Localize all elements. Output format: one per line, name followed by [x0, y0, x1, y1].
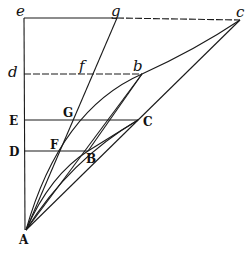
- label-D: D: [9, 145, 19, 159]
- label-g: g: [111, 2, 121, 20]
- vertical-line-eA: [24, 18, 25, 230]
- line-g-c: [117, 18, 240, 20]
- label-G: G: [63, 106, 73, 120]
- label-C: C: [143, 115, 153, 129]
- label-B: B: [86, 152, 96, 166]
- line-A-c: [26, 20, 240, 230]
- label-A: A: [18, 233, 29, 247]
- curve-b-c: [142, 20, 240, 74]
- line-A-g: [26, 18, 117, 230]
- label-e: e: [16, 2, 25, 20]
- label-d: d: [8, 63, 18, 81]
- label-b: b: [133, 57, 143, 75]
- line-A-b: [26, 74, 142, 230]
- line-B-b: [88, 74, 142, 151]
- label-c: c: [236, 3, 245, 21]
- label-f: f: [78, 57, 87, 75]
- label-E: E: [9, 114, 18, 128]
- label-F: F: [50, 138, 59, 152]
- line-B-C: [88, 120, 138, 151]
- geometric-diagram: e g c d f b E G C D F B A: [0, 0, 252, 253]
